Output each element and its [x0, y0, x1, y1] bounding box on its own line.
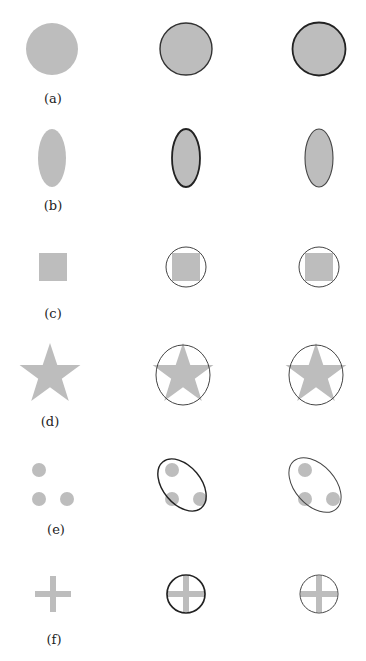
label-c: (c) [44, 306, 61, 321]
dot [60, 492, 74, 506]
ellipse-shape [38, 129, 66, 187]
square-shape-2 [172, 253, 200, 281]
cross-vertical [50, 576, 56, 612]
row-f: (f) [35, 575, 338, 647]
square-shape [39, 253, 67, 281]
ellipse-shape-enclosed-1 [172, 129, 200, 187]
circle-shape-enclosed-1 [160, 23, 212, 75]
dot [165, 463, 179, 477]
star-shape [20, 343, 81, 401]
row-b: (b) [38, 129, 333, 213]
dot [32, 492, 46, 506]
enclosing-ellipse-1 [148, 450, 216, 520]
ellipse-shape-enclosed-2 [305, 129, 333, 187]
dot [165, 492, 179, 506]
row-c: (c) [39, 247, 339, 321]
row-d: (d) [20, 343, 347, 429]
label-e: (e) [47, 522, 65, 537]
cross-vertical [316, 576, 322, 612]
circle-shape [26, 23, 78, 75]
dot [326, 492, 340, 506]
label-b: (b) [44, 198, 62, 213]
star-shape-2 [153, 343, 214, 401]
cross-vertical [183, 576, 189, 612]
enclosing-shapes-figure: (a) (b) (c) (d) (e) [0, 0, 366, 661]
dot [32, 463, 46, 477]
label-a: (a) [44, 91, 62, 106]
label-d: (d) [41, 414, 59, 429]
row-a: (a) [26, 23, 346, 107]
circle-shape-enclosed-2 [293, 23, 346, 76]
square-shape-3 [305, 253, 333, 281]
dot [298, 463, 312, 477]
row-e: (e) [32, 448, 351, 537]
star-shape-3 [286, 343, 347, 401]
label-f: (f) [47, 632, 62, 647]
enclosing-ellipse-2 [279, 448, 352, 522]
